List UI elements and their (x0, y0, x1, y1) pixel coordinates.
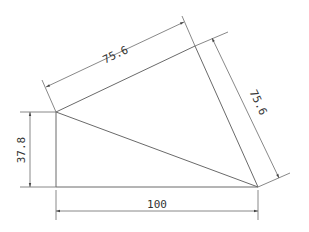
dimension-label-bottom: 100 (147, 198, 167, 211)
diagonal-a-c (56, 112, 258, 187)
extension-line (42, 80, 56, 112)
extension-line (258, 173, 290, 187)
shape-geometry (56, 46, 258, 187)
extension-line (195, 32, 228, 46)
extension-line (182, 16, 195, 46)
dimension-label-top: 75.6 (101, 43, 131, 66)
dimension-top-edge: 75.6 (42, 16, 195, 112)
dimension-label-right: 75.6 (247, 88, 270, 118)
technical-drawing: 75.6 75.6 37.8 100 (0, 0, 309, 232)
dimension-bottom-width: 100 (56, 190, 258, 220)
edge-d-c (195, 46, 258, 187)
dimension-label-left: 37.8 (15, 137, 28, 164)
dimension-left-height: 37.8 (15, 112, 56, 187)
dimension-right-edge: 75.6 (195, 32, 290, 187)
